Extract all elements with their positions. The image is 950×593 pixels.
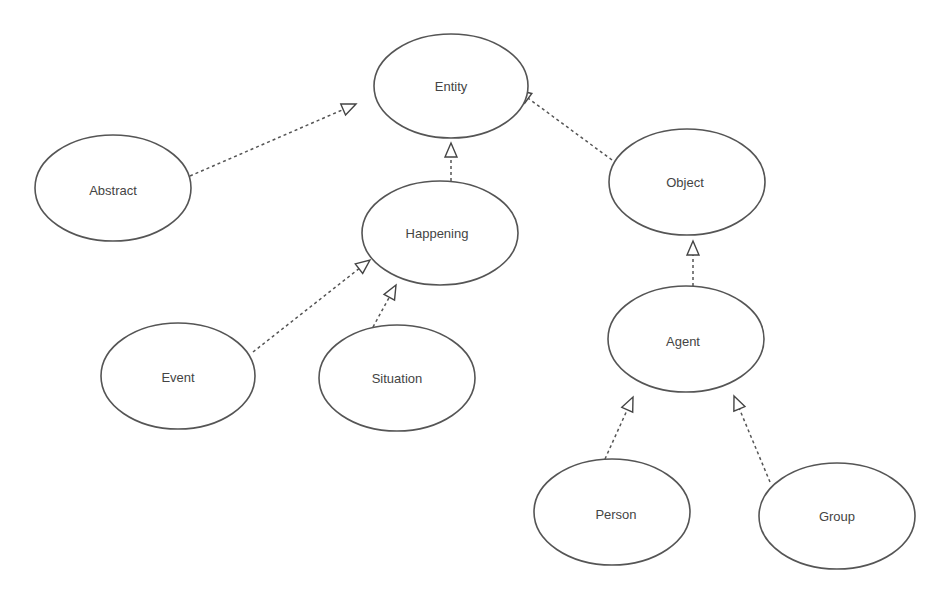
hollow-triangle-arrow-icon: [341, 104, 356, 115]
event-label: Event: [161, 370, 195, 385]
hollow-triangle-arrow-icon: [734, 396, 745, 411]
edge-person-to-agent: [605, 397, 633, 459]
entity-label: Entity: [435, 79, 468, 94]
node-object[interactable]: Object: [609, 129, 765, 235]
edge-object-to-entity: [517, 90, 612, 160]
abstract-label: Abstract: [89, 183, 137, 198]
hollow-triangle-arrow-icon: [355, 260, 370, 273]
edge-group-to-agent: [734, 396, 770, 482]
node-happening[interactable]: Happening: [362, 181, 518, 285]
object-label: Object: [666, 175, 704, 190]
node-situation[interactable]: Situation: [319, 325, 475, 431]
hollow-triangle-arrow-icon: [687, 241, 699, 255]
dashed-connector: [190, 110, 343, 176]
dashed-connector: [528, 98, 612, 160]
hollow-triangle-arrow-icon: [384, 285, 396, 300]
group-label: Group: [819, 509, 855, 524]
person-label: Person: [595, 507, 636, 522]
nodes-layer: Entity Abstract Happening Object Event S…: [35, 34, 915, 569]
hollow-triangle-arrow-icon: [445, 143, 457, 157]
class-hierarchy-diagram: Entity Abstract Happening Object Event S…: [0, 0, 950, 593]
agent-label: Agent: [666, 334, 700, 349]
node-entity[interactable]: Entity: [374, 34, 528, 138]
edge-situation-to-happening: [373, 285, 396, 327]
edge-agent-to-object: [687, 241, 699, 286]
situation-label: Situation: [372, 371, 423, 386]
node-person[interactable]: Person: [534, 459, 690, 565]
dashed-connector: [605, 410, 627, 459]
hollow-triangle-arrow-icon: [622, 397, 633, 412]
dashed-connector: [739, 409, 770, 482]
node-agent[interactable]: Agent: [608, 286, 764, 392]
node-abstract[interactable]: Abstract: [35, 135, 191, 241]
node-group[interactable]: Group: [759, 463, 915, 569]
happening-label: Happening: [406, 226, 469, 241]
dashed-connector: [373, 297, 389, 327]
node-event[interactable]: Event: [101, 323, 255, 429]
edge-abstract-to-entity: [190, 104, 356, 176]
edge-happening-to-entity: [445, 143, 457, 181]
